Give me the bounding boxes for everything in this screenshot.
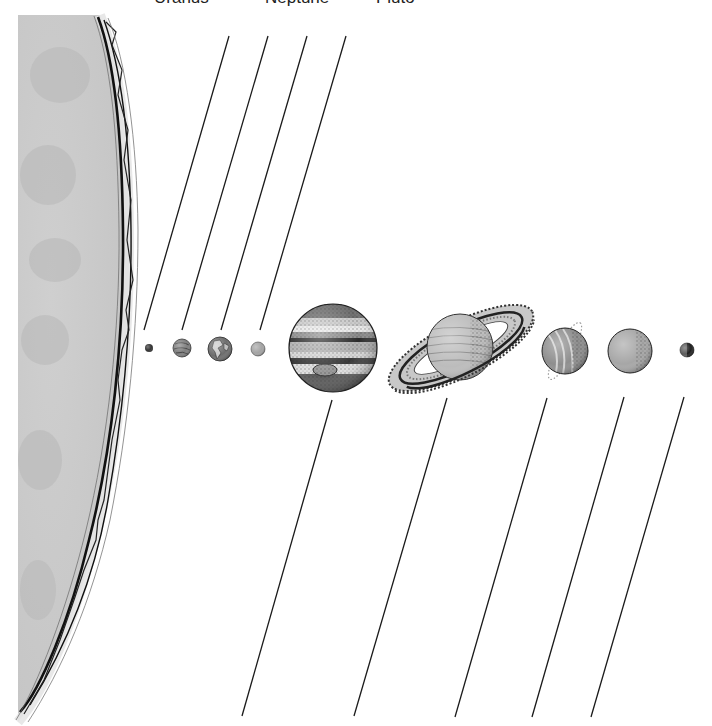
planet-saturn — [378, 289, 544, 409]
label-line-mars — [260, 36, 346, 330]
sun — [16, 15, 138, 722]
diagram-canvas — [0, 0, 712, 726]
label-neptune: Neptune — [265, 0, 329, 8]
planet-mars — [251, 342, 265, 356]
label-line-saturn — [354, 398, 447, 716]
label-pluto: Pluto — [376, 0, 415, 8]
label-line-venus — [182, 36, 268, 330]
upper-label-lines — [144, 36, 346, 330]
planet-uranus — [542, 319, 588, 383]
label-line-earth — [221, 36, 307, 330]
planet-earth — [208, 337, 232, 361]
planet-pluto — [680, 343, 694, 357]
planet-venus — [173, 339, 191, 357]
lower-label-lines — [242, 397, 684, 717]
solar-system-diagram: Uranus Neptune Pluto — [0, 0, 712, 726]
label-line-uranus — [455, 398, 547, 717]
planet-mercury — [145, 344, 153, 352]
label-line-pluto — [591, 397, 684, 717]
label-line-mercury — [144, 36, 229, 330]
label-line-neptune — [532, 397, 624, 717]
planet-jupiter — [289, 304, 377, 392]
label-line-jupiter — [242, 400, 332, 716]
label-uranus: Uranus — [154, 0, 209, 8]
planet-neptune — [608, 329, 652, 373]
